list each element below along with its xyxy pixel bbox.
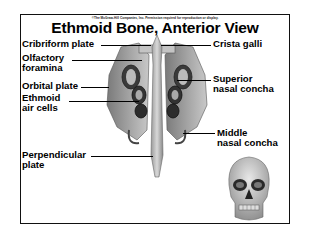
ethmoid-bone-illustration (99, 35, 215, 185)
leader-line-cribriform-plate (101, 45, 151, 46)
skull-locator-illustration (221, 155, 277, 223)
leader-line-superior-nasal-concha (177, 80, 211, 81)
label-perpendicular-plate-line2: plate (22, 160, 44, 171)
label-middle-nasal-concha-line2: nasal concha (217, 138, 278, 149)
leader-line-ethmoid-air-cells (69, 101, 139, 102)
leader-line-middle-nasal-concha (183, 133, 215, 134)
label-orbital-plate: Orbital plate (22, 81, 78, 92)
leader-line-orbital-plate (81, 87, 109, 88)
label-ethmoid-air-cells-line2: air cells (22, 103, 58, 114)
leader-line-olfactory-foramina (72, 60, 142, 61)
label-superior-nasal-concha-line2: nasal concha (213, 84, 274, 95)
label-cribriform-plate: Cribriform plate (22, 39, 94, 50)
leader-line-perpendicular-plate (91, 156, 153, 157)
diagram-frame: ©The McGraw-Hill Companies, Inc. Permiss… (20, 14, 290, 224)
label-olfactory-foramina-line2: foramina (22, 63, 63, 74)
leader-line-crista-galli (161, 45, 211, 46)
label-crista-galli: Crista galli (213, 39, 262, 50)
